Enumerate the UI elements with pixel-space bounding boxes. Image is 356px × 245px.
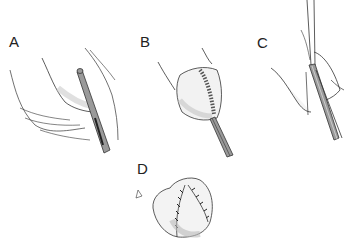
panel-c: C xyxy=(236,0,356,160)
panel-a: A xyxy=(0,0,120,160)
panel-d: D xyxy=(120,150,240,245)
panel-b: B xyxy=(120,0,240,160)
panel-a-illustration xyxy=(0,0,120,160)
panel-b-illustration xyxy=(120,0,240,160)
panel-c-illustration xyxy=(236,0,356,160)
panel-d-illustration xyxy=(120,150,240,245)
